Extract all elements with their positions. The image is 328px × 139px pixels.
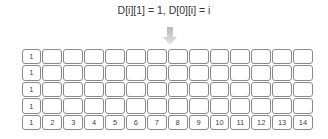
table-cell: 13 — [272, 115, 292, 131]
table-cell — [42, 65, 62, 81]
table-cell — [84, 49, 104, 65]
table-cell — [168, 82, 188, 98]
table-cell — [63, 98, 83, 114]
table-cell: 7 — [147, 115, 167, 131]
table-cell — [189, 98, 209, 114]
table-cell: 10 — [210, 115, 230, 131]
table-cell — [230, 65, 250, 81]
table-cell — [210, 49, 230, 65]
table-cell — [168, 65, 188, 81]
table-cell — [230, 49, 250, 65]
table-cell — [272, 98, 292, 114]
table-cell: 3 — [63, 115, 83, 131]
table-cell — [147, 82, 167, 98]
table-cell: 11 — [230, 115, 250, 131]
table-cell — [105, 65, 125, 81]
table-cell — [210, 82, 230, 98]
table-cell — [147, 98, 167, 114]
table-cell — [42, 82, 62, 98]
table-cell — [63, 65, 83, 81]
table-cell: 4 — [84, 115, 104, 131]
table-cell: 8 — [168, 115, 188, 131]
table-cell — [126, 65, 146, 81]
dp-table-grid: 11111234567891011121314 — [21, 48, 313, 131]
table-cell: 6 — [126, 115, 146, 131]
table-cell — [126, 82, 146, 98]
table-cell: 1 — [22, 82, 42, 98]
down-arrow-icon — [163, 27, 177, 45]
table-cell — [293, 49, 313, 65]
table-cell: 1 — [22, 65, 42, 81]
table-cell — [272, 82, 292, 98]
table-cell — [63, 49, 83, 65]
table-cell — [105, 98, 125, 114]
table-cell — [272, 49, 292, 65]
table-cell: 5 — [105, 115, 125, 131]
table-cell — [230, 98, 250, 114]
table-cell — [251, 65, 271, 81]
table-cell — [230, 82, 250, 98]
table-cell: 9 — [189, 115, 209, 131]
table-cell — [293, 98, 313, 114]
table-cell — [293, 65, 313, 81]
table-cell — [189, 82, 209, 98]
table-cell — [105, 82, 125, 98]
table-cell — [126, 98, 146, 114]
table-cell — [42, 98, 62, 114]
table-cell — [84, 82, 104, 98]
table-cell: 1 — [22, 115, 42, 131]
table-cell — [63, 82, 83, 98]
table-cell: 12 — [251, 115, 271, 131]
table-cell — [251, 82, 271, 98]
table-cell — [126, 49, 146, 65]
table-cell — [168, 49, 188, 65]
table-cell — [84, 65, 104, 81]
table-cell: 1 — [22, 49, 42, 65]
table-cell — [210, 98, 230, 114]
table-cell — [293, 82, 313, 98]
table-cell — [147, 49, 167, 65]
table-cell — [105, 49, 125, 65]
table-cell — [251, 98, 271, 114]
table-cell: 14 — [293, 115, 313, 131]
table-cell — [42, 49, 62, 65]
diagram-title: D[i][1] = 1, D[0][i] = i — [0, 4, 328, 16]
table-cell — [147, 65, 167, 81]
table-cell — [189, 65, 209, 81]
table-cell: 1 — [22, 98, 42, 114]
table-cell — [84, 98, 104, 114]
table-cell — [210, 65, 230, 81]
table-cell: 2 — [42, 115, 62, 131]
table-cell — [189, 49, 209, 65]
table-cell — [272, 65, 292, 81]
table-cell — [251, 49, 271, 65]
table-cell — [168, 98, 188, 114]
